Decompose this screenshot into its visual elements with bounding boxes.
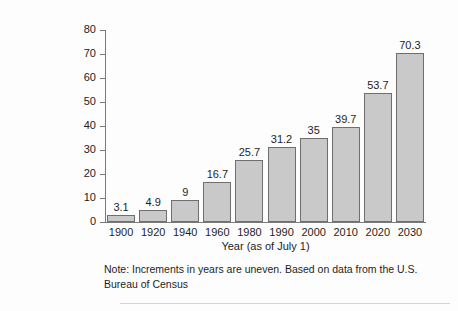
y-axis-tick-label: 70 [70, 48, 96, 59]
bar[interactable] [107, 215, 135, 222]
bar[interactable] [300, 138, 328, 222]
bar-value-label: 39.7 [325, 113, 367, 125]
y-axis-tick-label-wrap: 20 [68, 168, 96, 179]
bar-group[interactable]: 9 [171, 30, 199, 222]
y-axis-tick-label: 50 [70, 96, 96, 107]
y-axis-tick-label-wrap: 50 [68, 96, 96, 107]
bar-group[interactable]: 3.1 [107, 30, 135, 222]
bar-value-label: 25.7 [228, 146, 270, 158]
bar-value-label: 9 [164, 186, 206, 198]
bar-value-label: 35 [293, 124, 335, 136]
bar[interactable] [203, 182, 231, 222]
y-axis-tick-label-wrap: 0 [68, 216, 96, 227]
y-axis-tick-label-wrap: 80 [68, 24, 96, 35]
bottom-divider [120, 303, 450, 304]
y-axis-tick-label: 0 [70, 216, 96, 227]
y-axis-tick-label: 40 [70, 120, 96, 131]
bar-value-label: 53.7 [357, 79, 399, 91]
y-axis-tick-label-wrap: 10 [68, 192, 96, 203]
bar[interactable] [139, 210, 167, 222]
bar-value-label: 16.7 [196, 168, 238, 180]
bar[interactable] [396, 53, 424, 222]
y-axis-tick-label: 60 [70, 72, 96, 83]
chart-note-line-2: Bureau of Census [104, 278, 188, 290]
chart-figure: 01020304050607080 3.14.9916.725.731.2353… [0, 0, 458, 311]
bar[interactable] [171, 200, 199, 222]
bar-group[interactable]: 70.3 [396, 30, 424, 222]
bar[interactable] [268, 147, 296, 222]
y-axis-tick-label-wrap: 70 [68, 48, 96, 59]
chart-note-line-1: Note: Increments in years are uneven. Ba… [104, 263, 417, 275]
bar-group[interactable]: 53.7 [364, 30, 392, 222]
bar-value-label: 70.3 [389, 39, 431, 51]
bar[interactable] [235, 160, 263, 222]
y-axis-tick-label: 20 [70, 168, 96, 179]
x-axis-line [105, 222, 426, 223]
bar[interactable] [364, 93, 392, 222]
y-axis-tick [100, 222, 106, 223]
chart-note: Note: Increments in years are uneven. Ba… [104, 262, 434, 292]
y-axis-tick-label-wrap: 40 [68, 120, 96, 131]
x-axis-tick-label: 2030 [388, 226, 432, 238]
bar-group[interactable]: 4.9 [139, 30, 167, 222]
y-axis-tick-label: 10 [70, 192, 96, 203]
bar-group[interactable]: 25.7 [235, 30, 263, 222]
x-axis-title: Year (as of July 1) [105, 240, 426, 252]
bar-group[interactable]: 16.7 [203, 30, 231, 222]
bar-group[interactable]: 39.7 [332, 30, 360, 222]
bar-group[interactable]: 35 [300, 30, 328, 222]
bar[interactable] [332, 127, 360, 222]
y-axis-tick-label-wrap: 60 [68, 72, 96, 83]
y-axis-tick-label-wrap: 30 [68, 144, 96, 155]
plot-area: 3.14.9916.725.731.23539.753.770.3 [105, 30, 426, 222]
y-axis-tick-label: 80 [70, 24, 96, 35]
bar-group[interactable]: 31.2 [268, 30, 296, 222]
y-axis-tick-label: 30 [70, 144, 96, 155]
